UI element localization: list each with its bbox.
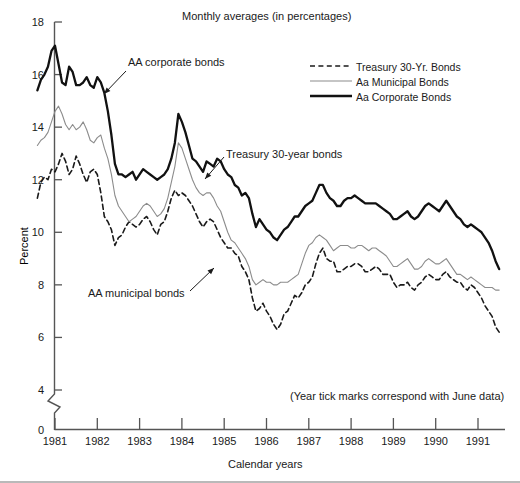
- x-tick-label: 1983: [127, 435, 151, 447]
- x-tick-label: 1990: [423, 435, 447, 447]
- series-line-dashed: [37, 153, 499, 332]
- year-tick-note: (Year tick marks correspond with June da…: [290, 390, 504, 402]
- y-tick-label: 18: [32, 16, 44, 28]
- y-tick-label: 6: [38, 331, 44, 343]
- x-tick-label: 1987: [297, 435, 321, 447]
- annotation-municipal: AA municipal bonds: [88, 287, 185, 299]
- y-tick-label: 14: [32, 121, 44, 133]
- arrow-corporate: [104, 71, 126, 94]
- chart-title: Monthly averages (in percentages): [182, 10, 351, 22]
- x-tick-label: 1989: [381, 435, 405, 447]
- y-axis-label: Percent: [18, 227, 30, 265]
- annotation-corporate: AA corporate bonds: [128, 56, 225, 68]
- annotation-treasury: Treasury 30-year bonds: [226, 148, 342, 160]
- arrow-municipal: [190, 268, 214, 291]
- legend-label-corporate: Aa Corporate Bonds: [356, 91, 451, 103]
- x-axis-label: Calendar years: [228, 458, 303, 470]
- x-tick-label: 1985: [212, 435, 236, 447]
- x-tick-label: 1984: [170, 435, 194, 447]
- x-tick-label: 1981: [43, 435, 67, 447]
- series-line-thin-gray: [37, 106, 499, 290]
- legend-label-treasury: Treasury 30-Yr. Bonds: [356, 61, 461, 73]
- x-tick-label: 1982: [85, 435, 109, 447]
- x-tick-label: 1991: [466, 435, 490, 447]
- x-tick-label: 1988: [339, 435, 363, 447]
- arrow-treasury: [205, 157, 224, 179]
- y-tick-label: 4: [38, 384, 44, 396]
- y-tick-label: 8: [38, 279, 44, 291]
- chart-page: 4681012141618019811982198319841985198619…: [0, 0, 520, 483]
- legend-label-municipal: Aa Municipal Bonds: [356, 76, 449, 88]
- x-tick-label: 1986: [254, 435, 278, 447]
- y-tick-label: 10: [32, 226, 44, 238]
